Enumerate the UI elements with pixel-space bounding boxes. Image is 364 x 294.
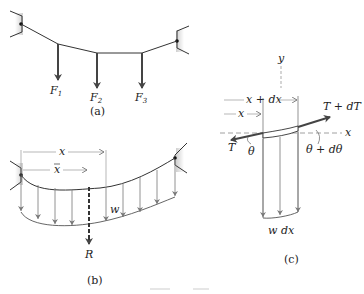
label-w-dx: w dx xyxy=(268,224,295,237)
label-f1: F1 xyxy=(49,84,62,98)
label-x-bar: x xyxy=(54,163,61,176)
cable-segments xyxy=(21,24,177,53)
label-x: x xyxy=(59,145,66,158)
label-w: w xyxy=(110,203,120,216)
label-y: y xyxy=(277,52,285,65)
label-x-plus-dx: x + dx xyxy=(246,93,282,106)
caption-a: (a) xyxy=(90,105,105,118)
angle-arc-theta-dtheta xyxy=(316,130,320,144)
element-load-envelope xyxy=(263,212,298,218)
distributed-load-arrows xyxy=(21,159,175,225)
label-f3: F3 xyxy=(134,91,148,105)
right-support-icon xyxy=(175,26,189,54)
label-x-c: x xyxy=(238,107,245,120)
figure-a: F1 F2 F3 (a) xyxy=(10,11,189,118)
label-t-plus-dt: T + dT xyxy=(323,100,363,113)
cable-diagram: F1 F2 F3 (a) xyxy=(0,0,364,294)
cable-element xyxy=(263,126,298,138)
cropped-figure-caption xyxy=(150,288,209,290)
angle-arc-theta xyxy=(247,137,251,144)
caption-c: (c) xyxy=(284,253,299,266)
caption-b: (b) xyxy=(87,274,103,287)
label-x-axis: x xyxy=(345,126,352,139)
label-t: T xyxy=(228,141,237,154)
figure-c: y x x + dx x T T + dT θ θ + dθ w xyxy=(220,52,363,266)
element-load-arrows xyxy=(263,132,298,217)
tension-arrow-t xyxy=(231,133,263,140)
tension-arrow-t-dt xyxy=(298,117,330,127)
figure-b: R x x w (b) xyxy=(10,143,187,287)
load-envelope xyxy=(21,197,175,226)
cable-curve xyxy=(21,158,175,190)
label-r: R xyxy=(84,248,93,261)
label-theta-plus-dtheta: θ + dθ xyxy=(306,143,343,156)
label-theta: θ xyxy=(248,145,255,158)
label-f2: F2 xyxy=(89,91,103,105)
